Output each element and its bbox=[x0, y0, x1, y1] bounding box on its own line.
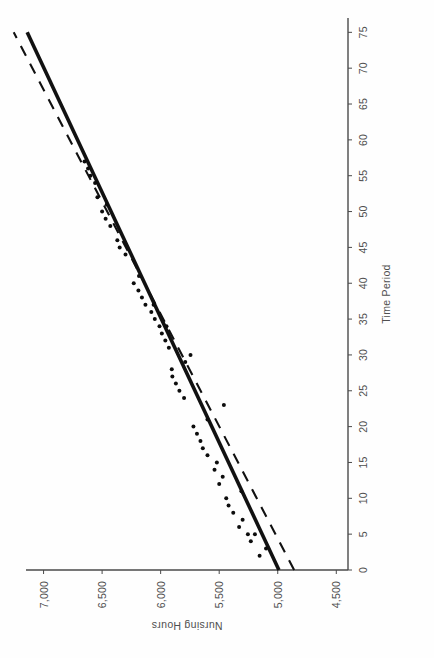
data-point bbox=[140, 296, 144, 300]
data-point bbox=[124, 253, 128, 257]
rotated-page-canvas: 051015202530354045505560657075 4,5005,00… bbox=[0, 0, 434, 658]
data-point bbox=[241, 518, 245, 522]
data-point bbox=[222, 403, 226, 407]
scatter-plot-svg: 051015202530354045505560657075 4,5005,00… bbox=[0, 0, 434, 658]
data-point bbox=[167, 346, 171, 350]
data-point bbox=[143, 303, 147, 307]
x-tick-label: 60 bbox=[357, 134, 369, 146]
data-point bbox=[205, 453, 209, 457]
x-tick-label: 65 bbox=[357, 98, 369, 110]
data-point bbox=[86, 167, 90, 171]
data-point bbox=[105, 202, 109, 206]
data-point bbox=[239, 489, 243, 493]
data-point bbox=[183, 360, 187, 364]
data-point bbox=[177, 389, 181, 393]
y-axis-title: Nursing Hours bbox=[151, 620, 222, 632]
data-point bbox=[88, 174, 92, 178]
y-tick-label: 5,000 bbox=[272, 581, 284, 608]
data-point bbox=[115, 238, 119, 242]
trend-lines-group bbox=[14, 32, 294, 570]
data-point bbox=[195, 432, 199, 436]
data-point bbox=[170, 374, 174, 378]
x-tick-label: 40 bbox=[357, 277, 369, 289]
data-point bbox=[253, 532, 257, 536]
data-point bbox=[165, 324, 169, 328]
x-axis-title: Time Period bbox=[380, 264, 392, 324]
x-tick-label: 55 bbox=[357, 170, 369, 182]
data-point bbox=[258, 554, 262, 558]
data-point bbox=[160, 331, 164, 335]
data-point bbox=[170, 367, 174, 371]
data-point bbox=[152, 303, 156, 307]
data-point bbox=[221, 475, 225, 479]
data-point bbox=[118, 245, 122, 249]
x-tick-label: 45 bbox=[357, 241, 369, 253]
data-point bbox=[264, 546, 268, 550]
data-point bbox=[136, 288, 140, 292]
x-tick-label: 15 bbox=[357, 456, 369, 468]
x-tick-label: 10 bbox=[357, 492, 369, 504]
y-tick-label: 6,500 bbox=[96, 581, 108, 608]
x-tick-label: 50 bbox=[357, 206, 369, 218]
x-axis-tick-labels: 051015202530354045505560657075 bbox=[357, 26, 369, 573]
data-point bbox=[100, 210, 104, 214]
data-point bbox=[182, 396, 186, 400]
data-point bbox=[83, 159, 87, 163]
x-tick-label: 5 bbox=[357, 531, 369, 537]
y-tick-label: 7,000 bbox=[38, 581, 50, 608]
data-point bbox=[137, 274, 141, 278]
x-tick-label: 0 bbox=[357, 567, 369, 573]
x-tick-label: 25 bbox=[357, 385, 369, 397]
data-point bbox=[213, 468, 217, 472]
data-point bbox=[249, 539, 253, 543]
data-point bbox=[104, 217, 108, 221]
data-point bbox=[246, 532, 250, 536]
data-point bbox=[108, 224, 112, 228]
data-point bbox=[237, 525, 241, 529]
data-point bbox=[95, 195, 99, 199]
data-point bbox=[198, 439, 202, 443]
data-point bbox=[224, 496, 228, 500]
x-tick-label: 20 bbox=[357, 421, 369, 433]
x-tick-label: 70 bbox=[357, 62, 369, 74]
scatter-points-group bbox=[83, 159, 268, 557]
y-tick-label: 5,500 bbox=[213, 581, 225, 608]
data-point bbox=[191, 425, 195, 429]
data-point bbox=[157, 324, 161, 328]
data-point bbox=[201, 446, 205, 450]
data-point bbox=[174, 382, 178, 386]
axes-group bbox=[26, 18, 348, 570]
data-point bbox=[227, 503, 231, 507]
data-point bbox=[153, 317, 157, 321]
y-axis-tick-labels: 4,5005,0005,5006,0006,5007,000 bbox=[38, 581, 343, 608]
x-tick-label: 75 bbox=[357, 26, 369, 38]
data-point bbox=[231, 511, 235, 515]
data-point bbox=[205, 417, 209, 421]
data-point bbox=[215, 460, 219, 464]
x-tick-label: 35 bbox=[357, 313, 369, 325]
data-point bbox=[189, 353, 193, 357]
x-tick-label: 30 bbox=[357, 349, 369, 361]
y-tick-label: 4,500 bbox=[330, 581, 342, 608]
data-point bbox=[217, 482, 221, 486]
chart-plot-area: 051015202530354045505560657075 4,5005,00… bbox=[0, 0, 434, 658]
data-point bbox=[132, 281, 136, 285]
data-point bbox=[163, 339, 167, 343]
data-point bbox=[93, 181, 97, 185]
data-point bbox=[149, 310, 153, 314]
y-tick-label: 6,000 bbox=[155, 581, 167, 608]
